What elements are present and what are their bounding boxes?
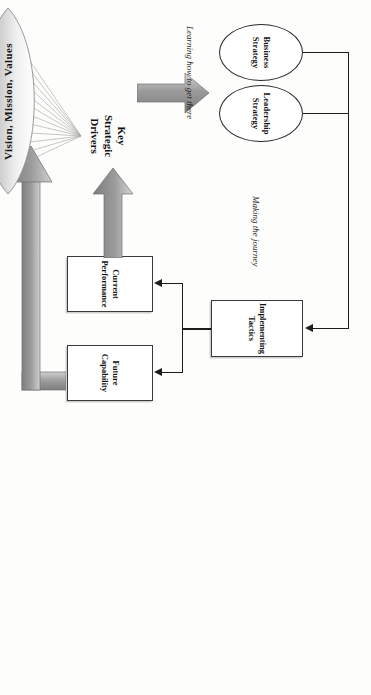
connector-to-leadership-strategy <box>303 113 349 114</box>
caption-learning-how-to-get-there: Learning how to get there <box>185 26 195 119</box>
diagram-canvas: Business Strategy Leadership Strategy Im… <box>0 0 371 695</box>
arrow-performance-to-drivers <box>93 168 133 258</box>
diagram-page: Business Strategy Leadership Strategy Im… <box>0 0 371 695</box>
connector-top-spine <box>348 52 349 329</box>
node-business-strategy[interactable]: Business Strategy <box>219 24 303 81</box>
connector-to-future-capability <box>159 372 183 373</box>
node-future-capability[interactable]: Future Capability <box>67 345 153 401</box>
arrowhead-future-capability <box>154 368 162 376</box>
arrowhead-current-performance <box>154 279 162 287</box>
node-key-strategic-drivers[interactable]: Key Strategic Drivers <box>81 96 135 176</box>
caption-making-text: Making the journey <box>251 196 261 266</box>
node-business-strategy-label: Business Strategy <box>250 37 271 69</box>
connector-to-implementing-tactics <box>310 328 349 329</box>
node-leadership-strategy-label: Leadership Strategy <box>250 92 271 134</box>
node-implementing-tactics[interactable]: Implementing Tactics <box>211 300 303 357</box>
node-leadership-strategy[interactable]: Leadership Strategy <box>219 85 303 142</box>
connector-tactics-split <box>182 283 183 373</box>
arrow-drivers-to-strategies <box>137 73 209 113</box>
connector-to-current-performance <box>159 283 183 284</box>
node-current-performance[interactable]: Current Performance <box>67 256 153 312</box>
connector-to-business-strategy <box>303 52 349 53</box>
leader-lines <box>0 0 11 300</box>
node-future-capability-label: Future Capability <box>99 354 120 392</box>
caption-making-the-journey: Making the journey <box>251 196 261 266</box>
arrowhead-implementing-tactics <box>305 324 313 332</box>
node-current-performance-label: Current Performance <box>99 260 120 307</box>
caption-learning-text: Learning how to get there <box>185 26 195 119</box>
node-key-strategic-drivers-label: Key Strategic Drivers <box>88 115 128 157</box>
connector-tactics-down <box>182 328 211 329</box>
node-implementing-tactics-label: Implementing Tactics <box>246 303 267 354</box>
